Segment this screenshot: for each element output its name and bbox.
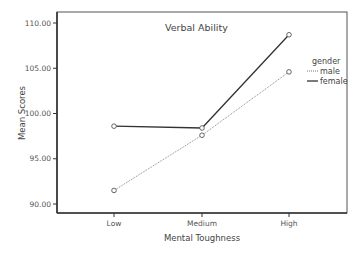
x-tick-label: Medium (187, 219, 217, 228)
x-tick-label: High (280, 219, 297, 228)
y-axis-title: Mean Scores (17, 85, 27, 140)
x-ticks: LowMediumHigh (107, 213, 298, 228)
y-tick-label: 90.00 (30, 200, 52, 209)
legend-male-label: male (320, 67, 340, 76)
data-point-female (200, 126, 205, 131)
data-point-female (112, 124, 117, 129)
x-axis-title: Mental Toughness (164, 233, 241, 243)
data-point-male (287, 70, 292, 75)
data-point-male (200, 133, 205, 138)
x-tick-label: Low (107, 219, 122, 228)
y-tick-label: 110.00 (25, 19, 51, 28)
data-point-male (112, 188, 117, 193)
chart: 90.0095.00100.00105.00110.00 LowMediumHi… (0, 0, 364, 255)
data-point-female (287, 32, 292, 37)
chart-title: Verbal Ability (165, 22, 228, 33)
legend-title: gender (312, 57, 341, 66)
y-ticks: 90.0095.00100.00105.00110.00 (25, 19, 57, 209)
legend-female-label: female (320, 77, 348, 86)
y-tick-label: 100.00 (25, 109, 51, 118)
y-tick-label: 105.00 (25, 64, 51, 73)
plot-frame (57, 12, 347, 213)
y-tick-label: 95.00 (30, 154, 52, 163)
